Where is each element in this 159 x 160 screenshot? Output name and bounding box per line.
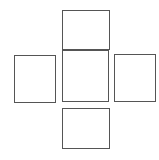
face-left [15, 56, 56, 103]
face-center [63, 51, 109, 102]
face-bottom [63, 109, 110, 149]
face-right [115, 55, 156, 102]
cube-net-diagram [0, 0, 159, 160]
face-top [63, 11, 110, 50]
